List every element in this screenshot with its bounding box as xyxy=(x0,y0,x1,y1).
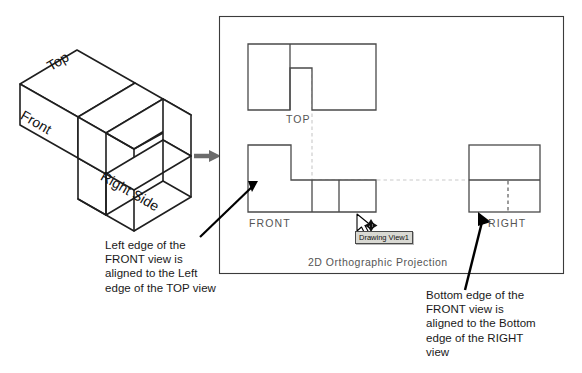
top-view-geometry xyxy=(248,44,376,110)
view-label-top: TOP xyxy=(286,113,311,125)
view-label-front: FRONT xyxy=(249,217,291,229)
left-alignment-note: Left edge of the FRONT view is aligned t… xyxy=(105,238,240,295)
iso-to-projection-arrow xyxy=(194,150,221,162)
drawing-view-tooltip: Drawing View1 xyxy=(355,231,413,244)
right-view-outline xyxy=(469,145,540,212)
top-view-outline xyxy=(248,44,376,110)
isometric-object xyxy=(20,50,191,231)
projection-caption: 2D Orthographic Projection xyxy=(308,256,448,268)
right-alignment-note: Bottom edge of the FRONT view is aligned… xyxy=(426,288,576,359)
figure-root: Top Front Right Side TOP FRONT RIGHT 2D … xyxy=(0,0,582,373)
view-label-right: RIGHT xyxy=(488,217,526,229)
right-view-geometry xyxy=(469,145,540,212)
